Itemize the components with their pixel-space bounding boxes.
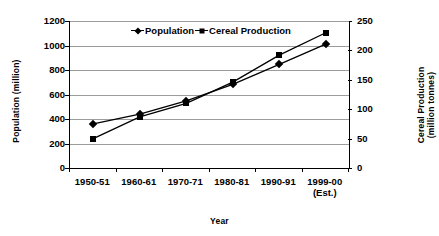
legend-item-population: Population Cereal Production: [131, 25, 292, 36]
x-axis-tick-label-text: 1999-00: [307, 176, 342, 187]
series-lines: [70, 21, 349, 168]
diamond-marker-icon: [134, 27, 141, 34]
plot-area: [69, 21, 350, 169]
y-axis-left-tick-label: 800: [25, 65, 65, 74]
square-data-point: [137, 114, 143, 120]
x-axis-title: Year: [0, 216, 439, 226]
square-data-point: [276, 52, 282, 58]
y-axis-left-tick-label: 200: [25, 139, 65, 148]
square-data-point: [183, 100, 189, 106]
y-axis-right-title: Cereal Production (million tonnes): [416, 45, 436, 165]
square-data-point: [90, 136, 96, 142]
y-axis-right-tick-label: 50: [357, 134, 397, 143]
series-line-population: [93, 44, 326, 124]
legend-line-cereal: [195, 30, 208, 31]
y-axis-left-tick-label: 600: [25, 90, 65, 99]
x-axis-tick-sublabel: (Est.): [290, 187, 360, 198]
y-axis-left-tick-label: 1200: [25, 16, 65, 25]
legend-label-population: Population: [145, 25, 194, 36]
legend-line-population: [131, 30, 144, 31]
series-line-cereal-production: [93, 33, 326, 139]
square-marker-icon: [199, 29, 204, 34]
y-axis-right-tick-label: 250: [357, 16, 397, 25]
y-axis-left-tick-label: 400: [25, 114, 65, 123]
y-axis-left-title: Population (million): [11, 41, 21, 161]
y-axis-right-title-line1: Cereal Production: [416, 67, 426, 144]
square-data-point: [230, 79, 236, 85]
chart-legend: Population Cereal Production: [131, 25, 292, 36]
chart-container: Population (million) Cereal Production (…: [0, 0, 439, 236]
square-data-point: [323, 30, 329, 36]
y-axis-right-title-line2: (million tonnes): [426, 72, 436, 138]
y-axis-left-tick-label: 1000: [25, 41, 65, 50]
legend-label-cereal: Cereal Production: [209, 25, 291, 36]
y-axis-right-tick-label: 100: [357, 104, 397, 113]
x-axis-tick-label: 1999-00(Est.): [290, 176, 360, 198]
y-axis-left-tick-label: 0: [25, 163, 65, 172]
y-axis-right-tick-label: 200: [357, 45, 397, 54]
y-axis-right-tick-label: 150: [357, 75, 397, 84]
y-axis-right-tick-label: 0: [357, 163, 397, 172]
